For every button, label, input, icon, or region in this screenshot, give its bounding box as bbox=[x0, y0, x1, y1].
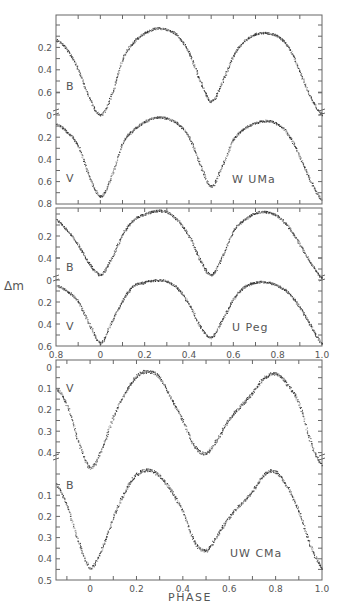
y-tick-label: 0.6 bbox=[38, 177, 53, 187]
x-tick-label: 0 bbox=[97, 350, 103, 360]
y-tick-label: 0.4 bbox=[38, 254, 53, 264]
filter-label-b: B bbox=[66, 479, 74, 492]
x-tick-label: 1.0 bbox=[315, 350, 330, 360]
y-tick-label: 0.2 bbox=[38, 43, 52, 53]
y-tick-label: 0.1 bbox=[38, 491, 52, 501]
filter-label-v: V bbox=[66, 172, 74, 185]
series-b-uw-cma: 0.10.20.30.40.5B bbox=[38, 468, 323, 585]
panel-u-peg: 0.800.20.40.60.81.00.20.4B00.20.40.6VU P… bbox=[38, 208, 330, 360]
panel-frame bbox=[56, 208, 322, 346]
y-axis-label: Δm bbox=[4, 279, 24, 293]
series-v-u-peg: 00.20.40.6V bbox=[38, 258, 323, 352]
light-curve-figure: 0.20.40.6B00.20.40.60.8VW UMa0.800.20.40… bbox=[0, 0, 338, 607]
x-tick-label: 0.2 bbox=[138, 350, 152, 360]
star-name-label: U Peg bbox=[232, 321, 269, 334]
x-tick-label: 0 bbox=[87, 584, 93, 594]
y-tick-label: 0.2 bbox=[38, 232, 52, 242]
y-tick-label: 0.1 bbox=[38, 384, 52, 394]
y-tick-label: 0.6 bbox=[38, 342, 53, 352]
x-tick-label: 0.8 bbox=[268, 584, 283, 594]
x-axis-label: PHASE bbox=[168, 591, 212, 604]
y-tick-label: 0.4 bbox=[38, 448, 53, 458]
y-tick-label: 0.6 bbox=[38, 88, 53, 98]
y-tick-label: 0.3 bbox=[38, 533, 52, 543]
y-tick-label: 0.8 bbox=[38, 199, 53, 209]
filter-label-v: V bbox=[66, 320, 74, 333]
x-tick-label: 0.2 bbox=[129, 584, 143, 594]
y-tick-label: 0.2 bbox=[38, 133, 52, 143]
x-tick-label: 0.6 bbox=[226, 350, 241, 360]
star-name-label: W UMa bbox=[232, 173, 276, 186]
y-tick-label: 0 bbox=[46, 111, 52, 121]
panel-w-uma: 0.20.40.6B00.20.40.60.8VW UMa bbox=[38, 15, 325, 209]
x-tick-label: 0.8 bbox=[271, 350, 286, 360]
x-tick-label: 0.6 bbox=[222, 584, 237, 594]
panel-frame bbox=[56, 15, 322, 204]
x-tick-label: 0.4 bbox=[182, 350, 197, 360]
panel-uw-cma: 00.20.40.60.81.000.10.20.30.4V0.10.20.30… bbox=[38, 360, 330, 594]
filter-label-b: B bbox=[66, 80, 74, 93]
y-tick-label: 0.2 bbox=[38, 405, 52, 415]
y-tick-label: 0 bbox=[46, 276, 52, 286]
y-tick-label: 0.2 bbox=[38, 298, 52, 308]
series-b-w-uma: 0.20.40.6B bbox=[38, 25, 323, 116]
series-b-u-peg: 0.20.4B bbox=[38, 210, 323, 279]
y-tick-label: 0.4 bbox=[38, 554, 53, 564]
series-v-w-uma: 00.20.40.60.8V bbox=[38, 93, 323, 210]
y-tick-label: 0.4 bbox=[38, 155, 53, 165]
x-tick-label: 1.0 bbox=[315, 584, 330, 594]
y-tick-label: 0.5 bbox=[38, 576, 52, 586]
y-tick-label: 0.4 bbox=[38, 320, 53, 330]
y-tick-label: 0 bbox=[46, 363, 52, 373]
series-v-uw-cma: 00.10.20.30.4V bbox=[38, 363, 323, 470]
y-tick-label: 0.3 bbox=[38, 427, 52, 437]
y-tick-label: 0.4 bbox=[38, 65, 53, 75]
light-curves-svg: 0.20.40.6B00.20.40.60.8VW UMa0.800.20.40… bbox=[0, 0, 338, 607]
x-tick-label: 0.8 bbox=[49, 350, 64, 360]
star-name-label: UW CMa bbox=[230, 547, 282, 560]
filter-label-b: B bbox=[66, 261, 74, 274]
y-tick-label: 0.2 bbox=[38, 512, 52, 522]
filter-label-v: V bbox=[66, 382, 74, 395]
